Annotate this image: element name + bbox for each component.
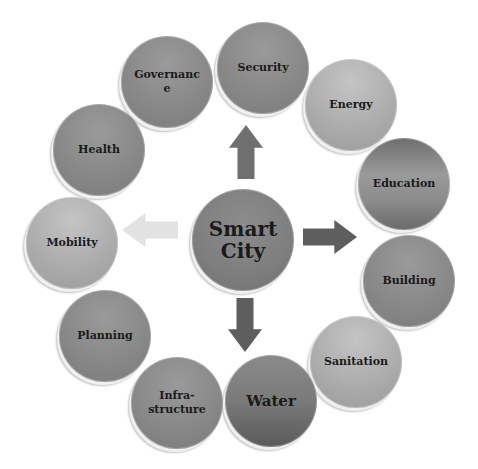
node-infrastructure-label: Infra- structure bbox=[142, 389, 212, 417]
arrow-right-icon bbox=[303, 220, 357, 254]
node-energy-label: Energy bbox=[323, 98, 378, 112]
arrow-up-icon bbox=[229, 125, 263, 179]
node-sanitation: Sanitation bbox=[310, 316, 402, 408]
center-node-smart-city-label: Smart City bbox=[192, 218, 294, 262]
node-water: Water bbox=[225, 355, 317, 447]
node-planning-label: Planning bbox=[71, 329, 138, 343]
node-sanitation-label: Sanitation bbox=[318, 355, 394, 369]
node-mobility: Mobility bbox=[26, 197, 118, 289]
node-infrastructure: Infra- structure bbox=[131, 357, 223, 449]
node-governance-label: Governanc e bbox=[128, 68, 206, 96]
arrow-left-icon bbox=[122, 213, 178, 247]
node-water-label: Water bbox=[240, 392, 302, 411]
node-security: Security bbox=[217, 22, 309, 114]
node-building: Building bbox=[363, 235, 455, 327]
node-security-label: Security bbox=[231, 61, 294, 75]
node-education-label: Education bbox=[367, 177, 442, 191]
center-node-smart-city: Smart City bbox=[192, 189, 294, 291]
arrow-down-icon bbox=[228, 298, 262, 352]
node-health-label: Health bbox=[72, 143, 126, 157]
node-health: Health bbox=[53, 104, 145, 196]
node-mobility-label: Mobility bbox=[40, 236, 103, 250]
node-education: Education bbox=[358, 138, 450, 230]
node-planning: Planning bbox=[59, 290, 151, 382]
node-governance: Governanc e bbox=[121, 36, 213, 128]
smart-city-diagram: SecurityEnergyEducationBuildingSanitatio… bbox=[0, 0, 478, 469]
node-energy: Energy bbox=[305, 59, 397, 151]
node-building-label: Building bbox=[376, 274, 441, 288]
